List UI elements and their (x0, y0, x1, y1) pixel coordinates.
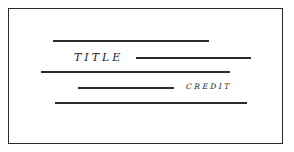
text-line-3 (41, 71, 230, 73)
text-line-5 (55, 102, 247, 104)
text-line-1 (53, 40, 209, 42)
title-line (136, 57, 251, 59)
credit-label: CREDIT (186, 83, 232, 91)
credit-leading-line (78, 87, 174, 89)
card-frame (8, 8, 283, 144)
title-label: TITLE (74, 52, 123, 63)
